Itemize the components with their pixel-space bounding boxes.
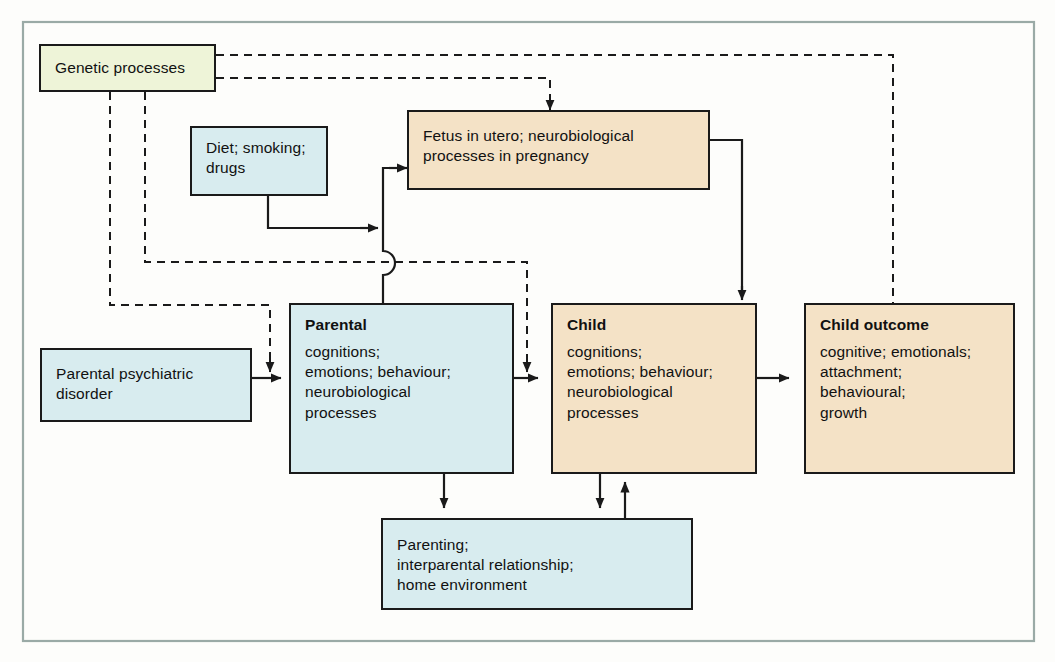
- node-genetic-processes[interactable]: Genetic processes: [39, 44, 216, 92]
- node-parental[interactable]: Parental cognitions; emotions; behaviour…: [289, 303, 514, 474]
- node-child-body: cognitions; emotions; behaviour; neurobi…: [567, 342, 743, 423]
- node-parenting-home-environment-label: Parenting; interparental relationship; h…: [397, 535, 679, 595]
- node-child-outcome-title: Child outcome: [820, 315, 1001, 335]
- node-diet-smoking-drugs-label: Diet; smoking; drugs: [206, 138, 314, 178]
- node-fetus-in-utero-label: Fetus in utero; neurobiological processe…: [423, 126, 696, 166]
- node-child[interactable]: Child cognitions; emotions; behaviour; n…: [551, 303, 757, 474]
- node-parental-title: Parental: [305, 315, 500, 335]
- figure-container: Genetic processes Diet; smoking; drugs F…: [0, 0, 1055, 662]
- node-parental-psychiatric-disorder[interactable]: Parental psychiatric disorder: [40, 348, 252, 422]
- edge-fetus-to-child: [710, 140, 742, 290]
- node-genetic-processes-label: Genetic processes: [55, 58, 185, 78]
- edge-diet-to-fetus: [268, 196, 371, 228]
- node-diet-smoking-drugs[interactable]: Diet; smoking; drugs: [190, 126, 328, 196]
- node-child-title: Child: [567, 315, 743, 335]
- node-parental-psychiatric-disorder-label: Parental psychiatric disorder: [56, 364, 238, 404]
- edge-genetic-to-fetus: [216, 78, 550, 100]
- node-child-outcome-body: cognitive; emotionals; attachment; behav…: [820, 342, 1001, 423]
- node-child-outcome[interactable]: Child outcome cognitive; emotionals; att…: [804, 303, 1015, 474]
- node-parental-body: cognitions; emotions; behaviour; neurobi…: [305, 342, 500, 423]
- node-parenting-home-environment[interactable]: Parenting; interparental relationship; h…: [381, 518, 693, 610]
- node-fetus-in-utero[interactable]: Fetus in utero; neurobiological processe…: [407, 110, 710, 190]
